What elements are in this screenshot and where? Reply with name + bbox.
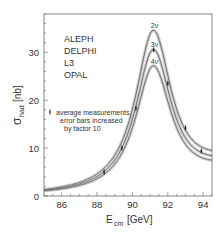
curve-labels: 2ν3ν4ν (151, 22, 159, 64)
x-tick-label: 88 (92, 199, 103, 210)
data-point (200, 150, 202, 152)
x-tick-label: 90 (127, 199, 138, 210)
y-tick-label: 0 (34, 191, 39, 202)
x-tick-label: 86 (56, 199, 67, 210)
data-point (103, 171, 105, 173)
y-label-sub: had (18, 105, 25, 117)
y-tick-label: 10 (28, 143, 39, 154)
y-label-unit: [nb] (12, 85, 23, 102)
chart-canvas: 8688909294 0102030 2ν3ν4ν ALEPH DELPHI L… (0, 0, 224, 232)
y-label-main: σ (10, 117, 24, 125)
data-point-icon (49, 111, 51, 113)
annotation-line: by factor 10 (64, 125, 101, 133)
x-label-main: E (106, 214, 113, 225)
x-label-sub: cm (114, 220, 124, 227)
experiments-legend: ALEPH DELPHI L3 OPAL (64, 34, 97, 80)
cross-section-chart: 8688909294 0102030 2ν3ν4ν ALEPH DELPHI L… (0, 0, 224, 232)
experiment-label: L3 (64, 58, 74, 68)
experiment-label: OPAL (64, 70, 87, 80)
annotation: average measurements, error bars increas… (49, 109, 131, 133)
x-tick-label: 92 (163, 199, 174, 210)
annotation-line: error bars increased (60, 117, 123, 124)
curve-label: 2ν (151, 22, 159, 29)
y-tick-label: 20 (28, 95, 39, 106)
data-point (135, 107, 137, 109)
x-tick-label: 94 (198, 199, 209, 210)
data-point (167, 82, 169, 84)
data-point (184, 127, 186, 129)
curve-label: 4ν (151, 58, 159, 65)
data-point (153, 49, 155, 51)
annotation-line: average measurements, (56, 109, 132, 117)
x-axis-ticks: 8688909294 (44, 192, 212, 210)
x-axis-label: E cm [GeV] (106, 214, 153, 227)
y-tick-label: 30 (28, 47, 39, 58)
y-axis-ticks: 0102030 (28, 14, 48, 202)
data-point (121, 147, 123, 149)
x-label-unit: [GeV] (127, 214, 153, 225)
y-axis-label: σ had [nb] (10, 85, 25, 125)
experiment-label: DELPHI (64, 46, 97, 56)
curve-label: 3ν (151, 41, 159, 48)
experiment-label: ALEPH (64, 34, 94, 44)
